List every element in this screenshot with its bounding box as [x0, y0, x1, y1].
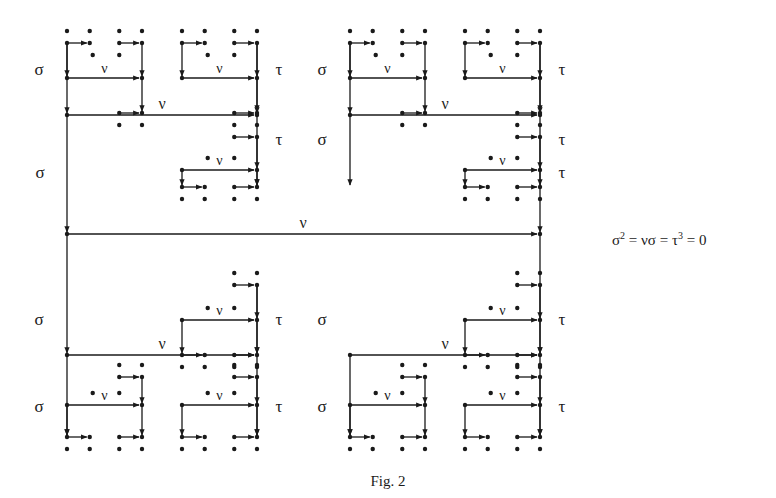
tau-label: τ: [559, 60, 566, 79]
node-dot: [206, 53, 210, 57]
node-dot: [489, 156, 493, 160]
node-dot: [206, 156, 210, 160]
node-dot: [348, 353, 352, 357]
node-dot: [206, 306, 210, 310]
nu-label: ν: [216, 388, 222, 403]
figure-caption: Fig. 2: [0, 473, 776, 490]
node-dot: [463, 447, 467, 451]
node-dot: [203, 197, 207, 201]
node-dot: [400, 375, 404, 379]
node-dot: [232, 197, 236, 201]
tau-label: τ: [559, 397, 566, 416]
node-dot: [232, 283, 236, 287]
node-dot: [232, 185, 236, 189]
sigma-label: σ: [34, 60, 43, 79]
node-dot: [117, 53, 121, 57]
relation-end: = 0: [683, 232, 706, 248]
node-dot: [65, 29, 69, 33]
node-dot: [232, 123, 236, 127]
node-dot: [232, 41, 236, 45]
node-dot: [255, 435, 259, 439]
node-dot: [203, 353, 207, 357]
node-dot: [255, 271, 259, 275]
node-dot: [232, 135, 236, 139]
node-dot: [255, 447, 259, 451]
node-dot: [117, 391, 121, 395]
node-dot: [232, 375, 236, 379]
node-dot: [117, 375, 121, 379]
node-dot: [232, 29, 236, 33]
node-dot: [117, 41, 121, 45]
nu-label: ν: [441, 95, 448, 112]
dot-layer: [65, 29, 542, 451]
node-dot: [489, 306, 493, 310]
node-dot: [400, 363, 404, 367]
node-dot: [538, 447, 542, 451]
node-dot: [180, 447, 184, 451]
node-dot: [515, 156, 519, 160]
relation-sigma: σ: [612, 232, 620, 248]
node-dot: [374, 53, 378, 57]
node-dot: [374, 391, 378, 395]
nu-label: ν: [101, 61, 107, 76]
node-dot: [140, 403, 144, 407]
node-dot: [180, 353, 184, 357]
node-dot: [463, 365, 467, 369]
node-dot: [348, 29, 352, 33]
node-dot: [65, 403, 69, 407]
node-dot: [515, 185, 519, 189]
node-dot: [515, 29, 519, 33]
relation-equation: σ2 = νσ = τ3 = 0: [612, 230, 706, 249]
node-dot: [400, 435, 404, 439]
node-dot: [515, 363, 519, 367]
node-dot: [65, 232, 69, 236]
node-dot: [423, 363, 427, 367]
node-dot: [180, 41, 184, 45]
nu-label: ν: [158, 95, 165, 112]
node-dot: [348, 41, 352, 45]
node-dot: [255, 113, 259, 117]
node-dot: [463, 403, 467, 407]
node-dot: [515, 447, 519, 451]
node-dot: [255, 197, 259, 201]
node-dot: [203, 29, 207, 33]
node-dot: [180, 318, 184, 322]
node-dot: [180, 29, 184, 33]
node-dot: [486, 447, 490, 451]
node-dot: [180, 168, 184, 172]
node-dot: [423, 76, 427, 80]
node-dot: [255, 29, 259, 33]
node-dot: [515, 111, 519, 115]
sigma-label: σ: [317, 130, 326, 149]
tau-label: τ: [276, 397, 283, 416]
node-dot: [463, 318, 467, 322]
sigma-label: σ: [34, 310, 43, 329]
node-dot: [255, 363, 259, 367]
node-dot: [515, 375, 519, 379]
node-dot: [232, 391, 236, 395]
node-dot: [515, 306, 519, 310]
nu-label: ν: [441, 335, 448, 352]
node-dot: [538, 435, 542, 439]
node-dot: [538, 403, 542, 407]
tau-label: τ: [559, 310, 566, 329]
node-dot: [140, 435, 144, 439]
node-dot: [348, 447, 352, 451]
node-dot: [180, 435, 184, 439]
sigma-label: σ: [317, 310, 326, 329]
node-dot: [400, 391, 404, 395]
node-dot: [88, 447, 92, 451]
node-dot: [232, 447, 236, 451]
label-layer: ννννσττννννσττσννννσσττννννσσττστν: [34, 60, 565, 416]
nu-label: ν: [101, 388, 107, 403]
node-dot: [463, 197, 467, 201]
node-dot: [203, 185, 207, 189]
sigma-label: σ: [34, 397, 43, 416]
node-dot: [538, 318, 542, 322]
nu-label: ν: [216, 153, 222, 168]
node-dot: [348, 435, 352, 439]
nu-label: ν: [216, 61, 222, 76]
node-dot: [538, 29, 542, 33]
node-dot: [232, 111, 236, 115]
node-dot: [117, 363, 121, 367]
